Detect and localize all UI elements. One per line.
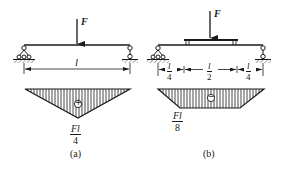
caption-b: (b): [203, 149, 215, 159]
force-label-a: F: [81, 17, 88, 27]
force-label-b: F: [214, 9, 221, 19]
segment-2-den: 2: [207, 72, 212, 82]
moment-max-den-b: 8: [175, 122, 180, 133]
roller-support-icon: [255, 46, 271, 63]
segment-label-1: l 4: [167, 62, 172, 82]
segment-2-num: l: [207, 62, 212, 72]
auxiliary-beam: [184, 39, 238, 45]
moment-max-label-a: Fl 4: [70, 124, 81, 146]
segment-3-num: l: [246, 62, 251, 72]
span-label-a: l: [75, 57, 78, 68]
moment-max-label-b: Fl 8: [172, 111, 183, 133]
roller-support-icon: [122, 46, 138, 63]
moment-max-den-a: 4: [73, 135, 78, 146]
diagram-canvas: [0, 0, 283, 169]
pin-support-icon: [147, 46, 169, 63]
segment-label-3: l 4: [246, 62, 251, 82]
segment-1-num: l: [167, 62, 172, 72]
pin-support-icon: [13, 46, 35, 63]
segment-3-den: 4: [246, 72, 251, 82]
segment-1-den: 4: [167, 72, 172, 82]
moment-sign-a: +: [75, 99, 82, 107]
moment-max-num-b: Fl: [172, 111, 183, 122]
moment-sign-b: −: [208, 93, 215, 101]
moment-max-num-a: Fl: [70, 124, 81, 135]
caption-a: (a): [70, 149, 81, 159]
segment-label-2: l 2: [207, 62, 212, 82]
